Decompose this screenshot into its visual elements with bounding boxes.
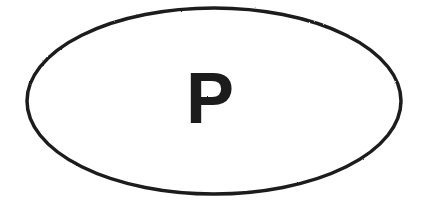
sticker-svg: P xyxy=(0,0,427,208)
country-code-letter: P xyxy=(186,58,234,138)
sticker-canvas: P xyxy=(0,0,427,208)
